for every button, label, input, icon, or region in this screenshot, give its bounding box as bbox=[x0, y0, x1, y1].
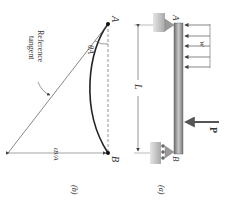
point-load-label: P bbox=[208, 127, 219, 133]
support-a-pin bbox=[165, 19, 174, 31]
angle-theta-label: θA bbox=[86, 45, 95, 54]
beam-deflection-figure: A B Reference tangent θA tB/A (b) L bbox=[0, 0, 226, 204]
deviation-label: tB/A bbox=[52, 148, 60, 161]
beam bbox=[174, 23, 183, 154]
panel-a-caption: (a) bbox=[157, 185, 166, 195]
tangent-label-line2: tangent bbox=[27, 36, 36, 60]
support-b-rollers bbox=[161, 144, 165, 160]
panel-b-caption: (b) bbox=[70, 185, 79, 195]
panel-a-beam-diagram: L w P A B (a) bbox=[133, 13, 219, 195]
span-label: L bbox=[133, 83, 144, 90]
panel-b-deflection-diagram: A B Reference tangent θA tB/A (b) bbox=[8, 15, 121, 195]
support-b-wall bbox=[150, 142, 161, 164]
point-b-label-b: B bbox=[110, 156, 121, 162]
point-b-label-a: B bbox=[171, 156, 181, 162]
reference-tangent-line bbox=[8, 24, 108, 153]
point-a-dot bbox=[106, 22, 110, 26]
distributed-load-label: w bbox=[198, 41, 208, 47]
tangent-label-line1: Reference bbox=[36, 30, 45, 63]
tangent-leader-arrow bbox=[38, 82, 50, 95]
support-a-wall bbox=[153, 13, 165, 32]
point-b-dot bbox=[106, 151, 110, 155]
point-a-label-b: A bbox=[110, 15, 121, 23]
point-a-label-a: A bbox=[171, 14, 181, 21]
